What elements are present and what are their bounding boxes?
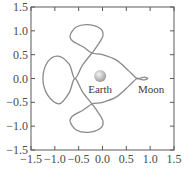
x-tick-label: −1.0 (44, 152, 66, 166)
earth-sphere-icon (94, 70, 106, 82)
y-tick-label: −0.5 (6, 95, 28, 109)
earth-label: Earth (88, 83, 112, 95)
x-tick-label: 1.0 (143, 152, 158, 166)
orbit-chart: −1.5−1.0−0.50.00.51.01.51.51.00.50.0−0.5… (0, 0, 190, 177)
y-tick-label: −1.5 (6, 143, 28, 157)
x-tick-label: −0.5 (68, 152, 90, 166)
x-tick-label: 1.5 (167, 152, 182, 166)
y-tick-label: 1.5 (13, 0, 28, 14)
y-tick-label: 0.0 (13, 72, 28, 86)
y-tick-label: −1.0 (6, 119, 28, 133)
y-tick-label: 0.5 (13, 48, 28, 62)
x-tick-label: 0.0 (95, 152, 110, 166)
x-tick-label: 0.5 (119, 152, 134, 166)
y-tick-label: 1.0 (13, 24, 28, 38)
moon-label: Moon (138, 83, 165, 95)
